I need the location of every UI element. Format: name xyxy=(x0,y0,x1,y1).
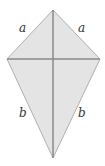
label-upper-left: a xyxy=(19,21,26,35)
label-lower-left: b xyxy=(19,106,27,120)
kite-diagram: a a b b xyxy=(0,0,105,166)
label-upper-right: a xyxy=(78,21,85,35)
label-lower-right: b xyxy=(78,106,86,120)
